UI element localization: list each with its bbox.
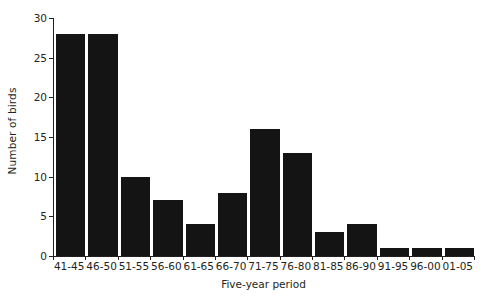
x-axis-line (53, 256, 474, 257)
y-axis-title-text: Number of birds (6, 87, 18, 174)
x-axis-tick-label: 71-75 (247, 259, 279, 273)
bar (315, 232, 344, 256)
bar (445, 248, 474, 256)
x-axis-tick-label: 96-00 (409, 259, 441, 273)
x-axis-tick-label: 61-65 (183, 259, 215, 273)
x-axis-title: Five-year period (53, 278, 474, 290)
bar (380, 248, 409, 256)
x-axis-tick-mark (474, 256, 475, 260)
y-axis-tick-label: 10 (34, 171, 47, 182)
bar (347, 224, 376, 256)
y-axis-tick-label: 25 (34, 52, 47, 63)
y-axis-tick-label: 20 (34, 92, 47, 103)
x-axis-tick-label: 86-90 (344, 259, 376, 273)
bar-series (53, 18, 474, 256)
x-axis-tick-label: 46-50 (85, 259, 117, 273)
bar (88, 34, 117, 256)
x-axis-tick-labels: 41-4546-5051-5556-6061-6566-7071-7576-80… (53, 259, 474, 275)
y-axis-tick-label: 15 (34, 132, 47, 143)
x-axis-tick-label: 51-55 (118, 259, 150, 273)
y-axis-tick-label: 30 (34, 13, 47, 24)
x-axis-tick-label: 91-95 (377, 259, 409, 273)
plot-area: 051015202530 (53, 18, 474, 256)
x-axis-tick-label: 81-85 (312, 259, 344, 273)
y-axis-title: Number of birds (0, 0, 24, 262)
x-axis-tick-label: 66-70 (215, 259, 247, 273)
bar (412, 248, 441, 256)
bar (250, 129, 279, 256)
bar (186, 224, 215, 256)
x-axis-tick-label: 76-80 (280, 259, 312, 273)
bar-chart-figure: Number of birds 051015202530 41-4546-505… (0, 0, 485, 302)
bar (283, 153, 312, 256)
y-axis-tick-label: 0 (40, 251, 47, 262)
x-axis-tick-label: 56-60 (150, 259, 182, 273)
bar (56, 34, 85, 256)
bar (121, 177, 150, 256)
x-axis-tick-label: 01-05 (442, 259, 474, 273)
y-axis-tick-label: 5 (40, 211, 47, 222)
bar (218, 193, 247, 256)
bar (153, 200, 182, 256)
x-axis-tick-label: 41-45 (53, 259, 85, 273)
